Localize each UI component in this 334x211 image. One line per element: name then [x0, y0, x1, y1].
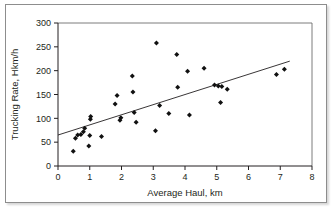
data-point [115, 93, 120, 98]
y-tick-label: 200 [36, 66, 51, 76]
x-tick-label: 7 [278, 172, 283, 182]
data-point [274, 72, 279, 77]
data-point [202, 66, 207, 71]
data-point [130, 73, 135, 78]
y-tick-label: 300 [36, 18, 51, 28]
data-point [282, 67, 287, 72]
y-tick-label: 100 [36, 114, 51, 124]
data-point [99, 134, 104, 139]
figure-container: 012345678050100150200250300Average Haul,… [0, 0, 334, 211]
data-point [87, 133, 92, 138]
x-tick-label: 5 [214, 172, 219, 182]
y-tick-label: 50 [41, 137, 51, 147]
data-point [174, 52, 179, 57]
data-point [130, 90, 135, 95]
data-point [218, 100, 223, 105]
x-tick-label: 0 [55, 172, 60, 182]
data-point [113, 102, 118, 107]
y-tick-label: 250 [36, 42, 51, 52]
data-point [175, 85, 180, 90]
x-tick-label: 4 [182, 172, 187, 182]
data-point [88, 114, 93, 119]
data-point [185, 69, 190, 74]
trend-line [58, 61, 290, 135]
data-point [86, 143, 91, 148]
y-axis-title: Trucking Rate, Hkm/h [9, 49, 20, 141]
x-tick-label: 1 [87, 172, 92, 182]
data-point [134, 120, 139, 125]
x-tick-label: 3 [151, 172, 156, 182]
data-point [71, 149, 76, 154]
data-point [212, 82, 217, 87]
x-tick-label: 8 [309, 172, 314, 182]
x-tick-label: 2 [119, 172, 124, 182]
data-point [187, 112, 192, 117]
y-tick-label: 0 [46, 161, 51, 171]
data-point [225, 87, 230, 92]
data-point [153, 128, 158, 133]
data-point [157, 103, 162, 108]
data-point [219, 84, 224, 89]
data-point [154, 41, 159, 46]
x-axis-title: Average Haul, km [147, 187, 222, 198]
x-tick-label: 6 [246, 172, 251, 182]
data-point [166, 111, 171, 116]
y-tick-label: 150 [36, 90, 51, 100]
scatter-chart: 012345678050100150200250300Average Haul,… [0, 0, 334, 211]
